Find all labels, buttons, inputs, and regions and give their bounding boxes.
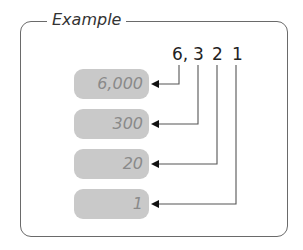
arrow-icon <box>151 200 159 208</box>
connector-lines <box>0 0 303 250</box>
arrow-icon <box>151 160 159 168</box>
arrow-icon <box>151 120 159 128</box>
arrow-icon <box>151 80 159 88</box>
